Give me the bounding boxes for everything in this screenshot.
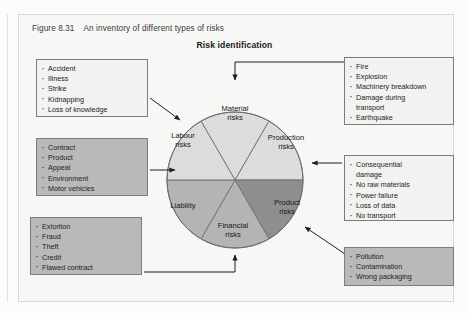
pie-label-production-risks: Production risks <box>255 133 317 152</box>
financial-risks-callout: ExtortionFraudTheftCreditFlawed contract <box>30 217 142 275</box>
callout-item: Product <box>42 153 142 163</box>
pie-label-liability: Liability <box>152 201 214 210</box>
callout-item: Appeal <box>42 163 142 173</box>
callout-item: Theft <box>36 242 136 252</box>
callout-item: Credit <box>36 253 136 263</box>
callout-list: ContractProductAppealEnvironmentMotor ve… <box>42 143 142 194</box>
callout-item: Flawed contract <box>36 263 136 273</box>
callout-item: Power failure <box>350 191 448 201</box>
callout-item: Pollution <box>350 252 448 262</box>
pie-label-financial-risks: Financial risks <box>202 221 264 240</box>
pie-label-material-risks: Material risks <box>204 104 266 123</box>
callout-item: Consequential damage <box>350 160 448 180</box>
callout-list: PollutionContaminationWrong packaging <box>350 252 448 283</box>
callout-list: FireExplosionMachinery breakdownDamage d… <box>350 62 448 123</box>
callout-item: Damage during transport <box>350 93 448 113</box>
callout-item: Motor vehicles <box>42 184 142 194</box>
material-risks-callout: FireExplosionMachinery breakdownDamage d… <box>344 57 454 125</box>
page-edge-line <box>7 14 8 302</box>
callout-item: Extortion <box>36 222 136 232</box>
callout-item: Contamination <box>350 262 448 272</box>
callout-item: Loss of data <box>350 201 448 211</box>
callout-item: Fire <box>350 62 448 72</box>
callout-item: Accident <box>42 64 142 74</box>
figure-number: Figure 8.31 <box>32 24 75 33</box>
callout-item: Machinery breakdown <box>350 82 448 92</box>
callout-item: Explosion <box>350 72 448 82</box>
production-risks-callout: Consequential damageNo raw materialsPowe… <box>344 155 454 221</box>
callout-list: AccidentIllnessStrikeKidnappingLoss of k… <box>42 64 142 115</box>
callout-item: Wrong packaging <box>350 272 448 282</box>
pie-label-product-risks: Product risks <box>256 198 318 217</box>
liability-callout: ContractProductAppealEnvironmentMotor ve… <box>36 138 148 196</box>
callout-item: Strike <box>42 84 142 94</box>
callout-item: No raw materials <box>350 180 448 190</box>
callout-item: Illness <box>42 74 142 84</box>
callout-list: Consequential damageNo raw materialsPowe… <box>350 160 448 221</box>
labour-risks-callout: AccidentIllnessStrikeKidnappingLoss of k… <box>36 59 148 117</box>
figure-caption: Figure 8.31An inventory of different typ… <box>32 24 224 33</box>
callout-item: Environment <box>42 174 142 184</box>
callout-item: No transport <box>350 211 448 221</box>
callout-item: Earthquake <box>350 113 448 123</box>
figure-caption-text: An inventory of different types of risks <box>84 24 224 33</box>
callout-item: Contract <box>42 143 142 153</box>
callout-item: Fraud <box>36 232 136 242</box>
figure-title: Risk identification <box>0 40 469 50</box>
product-risks-callout: PollutionContaminationWrong packaging <box>344 247 454 286</box>
figure-page: Figure 8.31An inventory of different typ… <box>0 0 469 313</box>
callout-item: Kidnapping <box>42 95 142 105</box>
callout-item: Loss of knowledge <box>42 105 142 115</box>
callout-list: ExtortionFraudTheftCreditFlawed contract <box>36 222 136 273</box>
pie-label-labour-risks: Labour risks <box>152 131 214 150</box>
